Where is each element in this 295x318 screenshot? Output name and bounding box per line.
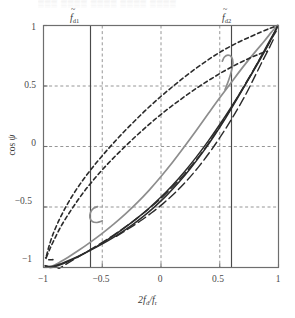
curve-short-dash-hook bbox=[46, 258, 53, 260]
figure-canvas: ▒▒▒ ▒▒▒▒ ▒▒▒▒ ▒▒▒▒ ▒▒▒▒ fd1 fd2 1 0.5 0 … bbox=[0, 0, 295, 318]
plot-area bbox=[0, 0, 295, 318]
curve-short-dash-lower bbox=[46, 51, 267, 257]
curve-gray-solid-hook bbox=[90, 207, 102, 223]
curve-black-solid-upper bbox=[45, 27, 277, 266]
curves-layer bbox=[45, 26, 278, 272]
curve-short-dash-upper bbox=[46, 26, 277, 257]
